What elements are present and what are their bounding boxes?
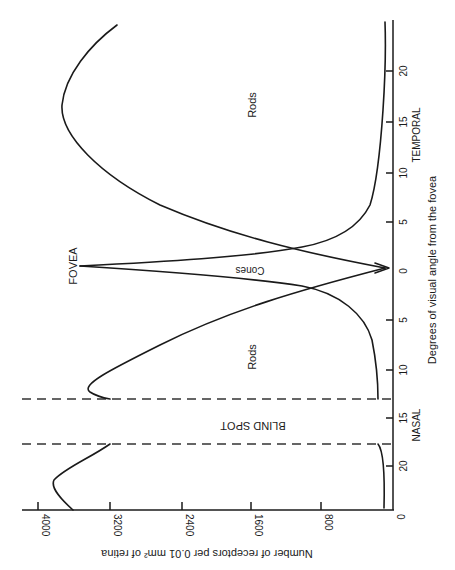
angle-tick-t15: 15 — [398, 116, 409, 128]
angle-tick-n10: 10 — [398, 364, 409, 376]
tick-label-800: 800 — [323, 514, 334, 531]
density-tick-labels: 4000 3200 2400 1600 800 0 — [40, 514, 406, 537]
tick-label-4000: 4000 — [40, 514, 51, 537]
angle-tick-n20: 20 — [398, 460, 409, 472]
angle-tick-t20: 20 — [398, 65, 409, 77]
cones-curve-temporal — [80, 22, 385, 266]
angle-tick-n5: 5 — [398, 317, 409, 323]
blind-spot-label: BLIND SPOT — [220, 420, 286, 432]
angle-axis-title: Degrees of visual angle from the fovea — [426, 175, 438, 364]
receptor-density-chart: 4000 3200 2400 1600 800 0 20 15 10 5 0 5… — [0, 0, 455, 570]
density-ticks — [38, 502, 321, 510]
angle-tick-0: 0 — [398, 268, 409, 274]
rods-curve-far-nasal — [53, 444, 110, 510]
cones-curve-nasal — [80, 266, 378, 399]
angle-tick-t5: 5 — [398, 219, 409, 225]
fovea-label: FOVEA — [67, 247, 79, 285]
nasal-label: NASAL — [411, 408, 422, 441]
cones-label: Cones — [236, 265, 265, 276]
tick-label-0: 0 — [395, 514, 406, 520]
tick-label-3200: 3200 — [112, 514, 123, 537]
rods-curve-temporal — [62, 25, 385, 268]
rods-label-temporal: Rods — [246, 92, 258, 118]
angle-tick-n15: 15 — [398, 412, 409, 424]
rods-label-nasal: Rods — [246, 344, 258, 370]
tick-label-1600: 1600 — [253, 514, 264, 537]
angle-tick-t10: 10 — [398, 167, 409, 179]
cones-curve-far-nasal — [378, 444, 384, 508]
density-axis-title: Number of receptors per 0.01 mm² of reti… — [100, 548, 312, 560]
temporal-label: TEMPORAL — [411, 107, 422, 162]
angle-tick-labels: 20 15 10 5 0 5 10 15 20 — [398, 65, 409, 472]
tick-label-2400: 2400 — [184, 514, 195, 537]
rods-curve-nasal — [88, 268, 385, 399]
